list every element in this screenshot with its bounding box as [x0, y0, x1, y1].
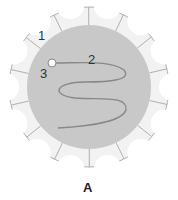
diagram-figure — [0, 0, 178, 200]
label-1: 1 — [38, 28, 45, 43]
caption: A — [83, 180, 92, 195]
label-2: 2 — [88, 52, 95, 67]
label-3: 3 — [40, 66, 47, 81]
white-dot — [48, 59, 56, 67]
inner-body — [27, 25, 151, 149]
